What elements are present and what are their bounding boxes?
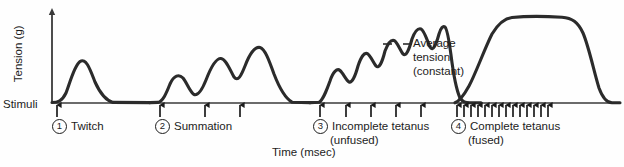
trace-summation (150, 47, 310, 102)
phase-sublabel-3: (unfused) (330, 134, 429, 148)
average-tension-annotation: Average tension (constant) (413, 36, 464, 78)
phase-text-4: Complete tetanus (470, 120, 560, 132)
stimulus-arrows-summation (160, 105, 240, 117)
stimuli-label: Stimuli (3, 98, 38, 112)
trace-twitch (52, 61, 150, 103)
phase-number-1: 1 (52, 119, 67, 134)
phase-label-twitch: 1Twitch (52, 119, 104, 134)
stimulus-arrows-incomplete-tetanus (320, 105, 421, 117)
trace-complete-tetanus (455, 16, 620, 102)
muscle-tension-figure: Tension (g) Stimuli Time (msec) 1Twitch … (0, 0, 624, 167)
phase-number-3: 3 (313, 119, 328, 134)
y-axis (49, 8, 55, 103)
average-tension-line-1: Average (413, 36, 464, 50)
y-axis-label: Tension (g) (12, 9, 26, 99)
phase-text-1: Twitch (71, 120, 104, 132)
average-tension-line-2: tension (413, 50, 464, 64)
phase-number-4: 4 (451, 119, 466, 134)
phase-sublabel-4: (fused) (468, 134, 560, 148)
phase-label-incomplete-tetanus: 3Incomplete tetanus (unfused) (313, 119, 429, 148)
x-axis-label: Time (msec) (272, 146, 335, 160)
phase-label-summation: 2Summation (155, 119, 232, 134)
stimulus-arrows-complete-tetanus (457, 105, 548, 117)
phase-text-2: Summation (174, 120, 232, 132)
phase-label-complete-tetanus: 4Complete tetanus (fused) (451, 119, 560, 148)
phase-number-2: 2 (155, 119, 170, 134)
average-tension-line-3: (constant) (413, 64, 464, 78)
phase-text-3: Incomplete tetanus (332, 120, 429, 132)
